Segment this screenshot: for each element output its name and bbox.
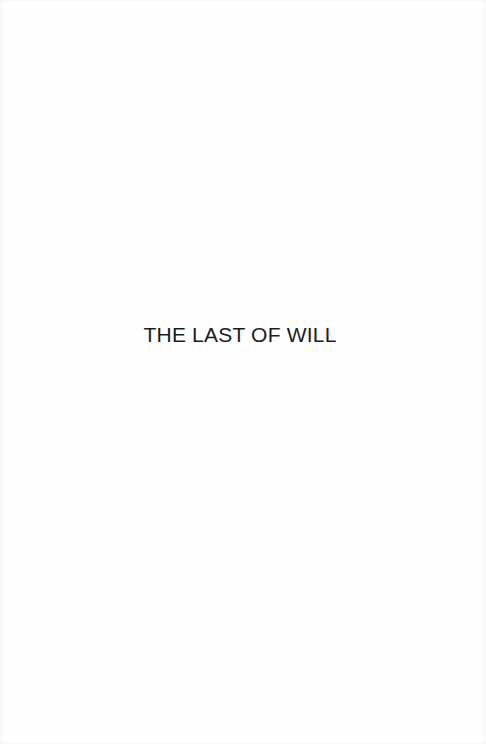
page-title: THE LAST OF WILL [0, 323, 480, 347]
document-page: THE LAST OF WILL [0, 0, 486, 744]
